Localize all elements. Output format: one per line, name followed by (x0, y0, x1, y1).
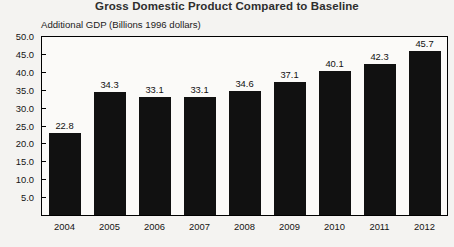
y-axis: 5.010.015.020.025.030.035.040.045.050.0 (0, 36, 38, 216)
bar-value-label: 22.8 (55, 120, 73, 131)
bar-rect (184, 97, 216, 215)
y-axis-caption: Additional GDP (Billions 1996 dollars) (41, 19, 201, 30)
bar-rect (409, 51, 441, 215)
bar-item: 22.8 (49, 36, 81, 215)
y-axis-tick-label: 45.0 (16, 48, 34, 59)
bar-value-label: 33.1 (145, 84, 163, 95)
bar-value-label: 42.3 (370, 51, 388, 62)
bar-value-label: 34.6 (235, 78, 253, 89)
bar-item: 34.3 (94, 36, 126, 215)
bar-rect (49, 133, 81, 215)
x-axis-tick-label: 2007 (189, 221, 210, 232)
chart-title: Gross Domestic Product Compared to Basel… (0, 0, 454, 12)
bar-rect (319, 71, 351, 215)
x-axis-tick-label: 2008 (234, 221, 255, 232)
y-axis-tick-label: 5.0 (21, 192, 34, 203)
bar-series: 22.834.333.133.134.637.140.142.345.7 (42, 36, 447, 215)
y-axis-tick-label: 25.0 (16, 120, 34, 131)
bar-rect (139, 97, 171, 215)
bar-item: 42.3 (364, 36, 396, 215)
x-axis-tick-label: 2010 (324, 221, 345, 232)
bar-item: 33.1 (139, 36, 171, 215)
bar-value-label: 40.1 (325, 58, 343, 69)
bar-item: 33.1 (184, 36, 216, 215)
y-axis-tick-label: 20.0 (16, 138, 34, 149)
bar-item: 37.1 (274, 36, 306, 215)
bar-item: 45.7 (409, 36, 441, 215)
x-axis-tick-label: 2004 (54, 221, 75, 232)
bar-value-label: 34.3 (100, 79, 118, 90)
x-axis-tick-label: 2011 (369, 221, 389, 232)
y-axis-tick-label: 15.0 (16, 156, 34, 167)
bar-item: 34.6 (229, 36, 261, 215)
bar-rect (274, 82, 306, 215)
y-axis-tick-label: 35.0 (16, 84, 34, 95)
x-axis-tick-label: 2009 (279, 221, 300, 232)
bar-rect (94, 92, 126, 215)
bar-rect (364, 64, 396, 215)
y-axis-tick-label: 40.0 (16, 66, 34, 77)
bar-value-label: 45.7 (415, 38, 433, 49)
bar-value-label: 37.1 (280, 69, 298, 80)
y-axis-tick-label: 30.0 (16, 102, 34, 113)
x-axis: 200420052006200720082009201020112012 (42, 221, 447, 237)
y-axis-tick-label: 10.0 (16, 174, 34, 185)
bar-value-label: 33.1 (190, 84, 208, 95)
x-axis-tick-label: 2005 (99, 221, 120, 232)
bar-item: 40.1 (319, 36, 351, 215)
x-axis-tick-label: 2006 (144, 221, 165, 232)
bar-rect (229, 91, 261, 215)
x-axis-tick-label: 2012 (414, 221, 435, 232)
y-axis-tick-label: 50.0 (16, 31, 34, 42)
